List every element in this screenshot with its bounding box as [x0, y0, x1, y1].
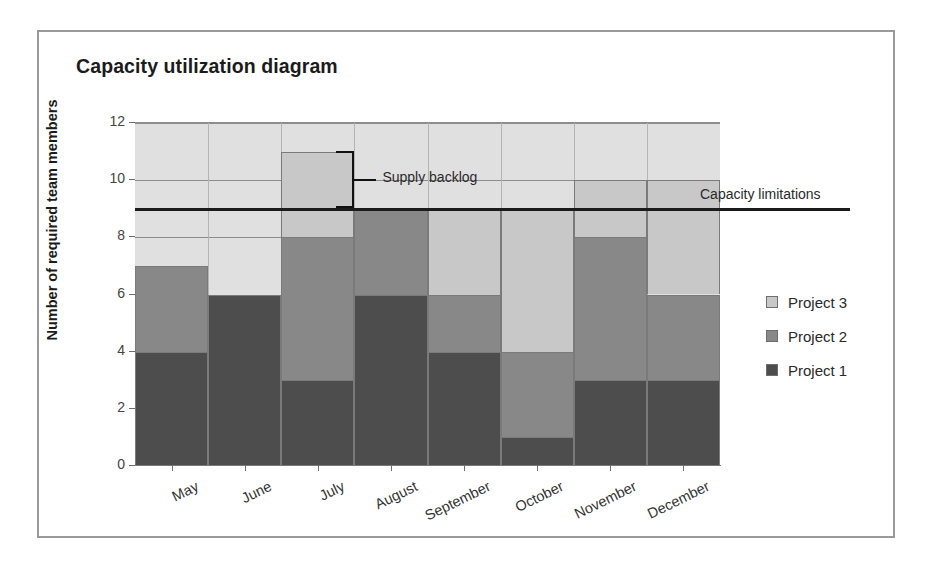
x-axis-tick-mark: [172, 465, 173, 471]
x-axis-tick-mark: [318, 465, 319, 471]
legend-swatch-icon: [766, 296, 778, 308]
bar-segment[interactable]: [501, 352, 574, 438]
y-axis-tick-label: 2: [95, 399, 125, 415]
bar-segment[interactable]: [501, 209, 574, 352]
page-title: Capacity utilization diagram: [76, 55, 338, 78]
y-axis-tick-label: 6: [95, 285, 125, 301]
legend-swatch-icon: [766, 330, 778, 342]
legend-item[interactable]: Project 1: [766, 353, 847, 387]
bar-column[interactable]: [647, 123, 720, 465]
bar-segment[interactable]: [574, 380, 647, 466]
y-axis-tick-mark: [129, 351, 135, 352]
x-axis-tick-mark: [537, 465, 538, 471]
y-axis-tick-label: 4: [95, 342, 125, 358]
bar-segment[interactable]: [501, 437, 574, 466]
supply-backlog-leader-line: [354, 179, 376, 181]
x-axis-line: [135, 465, 721, 466]
y-axis-tick-label: 0: [95, 456, 125, 472]
supply-backlog-bracket: [336, 151, 354, 208]
bar-segment[interactable]: [428, 295, 501, 352]
x-axis-tick-mark: [683, 465, 684, 471]
bar-segment[interactable]: [428, 352, 501, 466]
chart-screenshot: Capacity utilization diagram Number of r…: [0, 0, 935, 570]
legend-item-label: Project 2: [788, 328, 847, 345]
legend-item-label: Project 1: [788, 362, 847, 379]
y-axis-tick-mark: [129, 179, 135, 180]
y-axis-tick-label: 12: [95, 113, 125, 129]
y-axis-tick-mark: [129, 236, 135, 237]
bar-segment[interactable]: [574, 237, 647, 380]
capacity-limit-label: Capacity limitations: [700, 186, 821, 202]
y-axis-tick-mark: [129, 408, 135, 409]
y-axis-title: Number of required team members: [44, 70, 60, 370]
x-axis-tick-mark: [245, 465, 246, 471]
bar-column[interactable]: [208, 123, 281, 465]
x-axis-tick-mark: [610, 465, 611, 471]
x-axis-tick-mark: [464, 465, 465, 471]
bar-segment[interactable]: [354, 209, 427, 295]
legend-item[interactable]: Project 3: [766, 285, 847, 319]
x-axis-tick-mark: [391, 465, 392, 471]
legend-item-label: Project 3: [788, 294, 847, 311]
chart-legend: Project 3Project 2Project 1: [766, 285, 847, 387]
bar-segment[interactable]: [281, 380, 354, 466]
legend-swatch-icon: [766, 364, 778, 376]
bar-segment[interactable]: [208, 295, 281, 467]
bar-column[interactable]: [135, 123, 208, 465]
y-axis-tick-label: 10: [95, 170, 125, 186]
bar-column[interactable]: [574, 123, 647, 465]
legend-item[interactable]: Project 2: [766, 319, 847, 353]
bar-segment[interactable]: [647, 380, 720, 466]
bar-segment[interactable]: [135, 352, 208, 466]
capacity-limit-line: [135, 208, 850, 211]
bar-segment[interactable]: [354, 295, 427, 467]
y-axis-tick-mark: [129, 122, 135, 123]
bar-segment[interactable]: [647, 295, 720, 381]
bar-segment[interactable]: [428, 209, 501, 295]
bar-column[interactable]: [501, 123, 574, 465]
y-axis-tick-mark: [129, 465, 135, 466]
y-axis-tick-label: 8: [95, 227, 125, 243]
supply-backlog-label: Supply backlog: [382, 169, 477, 185]
bar-segment[interactable]: [135, 266, 208, 352]
y-axis-tick-mark: [129, 294, 135, 295]
bar-segment[interactable]: [281, 237, 354, 380]
